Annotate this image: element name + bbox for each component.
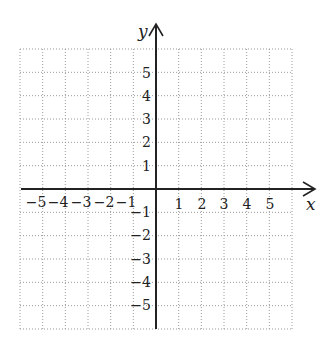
x-tick-label: 4 xyxy=(243,196,252,212)
x-tick-label: 3 xyxy=(220,196,229,212)
y-tick-label: 1 xyxy=(142,158,151,174)
y-tick-label: 4 xyxy=(142,88,151,104)
x-axis-label: x xyxy=(306,194,316,214)
y-axis-label: y xyxy=(137,21,148,41)
x-tick-label: −4 xyxy=(48,194,69,210)
y-tick-label: 2 xyxy=(142,134,151,150)
y-tick-label: −5 xyxy=(130,297,151,313)
y-tick-label: −3 xyxy=(130,251,151,267)
coordinate-plane: x y −5 −4 −3 −2 −1 1 2 3 4 5 5 4 3 2 1 −… xyxy=(0,0,332,348)
y-tick-label: −2 xyxy=(130,227,151,243)
x-tick-label: −3 xyxy=(71,194,92,210)
x-tick-label: 5 xyxy=(266,196,275,212)
y-tick-label: 3 xyxy=(142,111,151,127)
x-tick-label: −2 xyxy=(94,194,115,210)
x-tick-label: 1 xyxy=(175,196,184,212)
y-axis xyxy=(149,24,163,329)
y-tick-label: 5 xyxy=(142,65,151,81)
x-tick-label: 2 xyxy=(198,196,207,212)
y-tick-label: −4 xyxy=(130,274,151,290)
y-tick-label: −1 xyxy=(130,204,151,220)
x-tick-label: −5 xyxy=(26,194,47,210)
